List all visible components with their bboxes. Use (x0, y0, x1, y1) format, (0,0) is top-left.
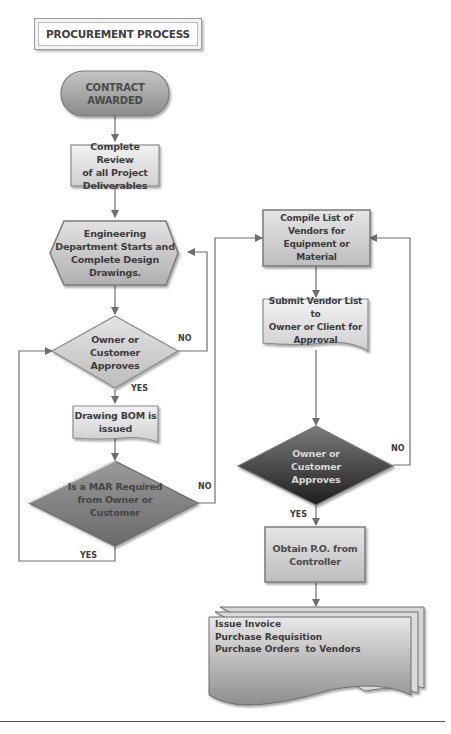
label-line: CONTRACT (85, 81, 144, 94)
label-line: Obtain P.O. from (273, 542, 358, 555)
label-line: Complete Design (55, 253, 174, 266)
label-line: from Owner or (68, 493, 163, 506)
label-line: Is a MAR Required (68, 480, 163, 493)
label-line: Compile List of (263, 212, 370, 225)
label-line: Owner or Client for (263, 321, 368, 334)
complete-review-label: Complete Review of all Project Deliverab… (71, 145, 159, 186)
label-line: AWARDED (85, 94, 144, 107)
edge-label-owner2-no: NO (391, 444, 405, 453)
output-item: Issue Invoice (215, 618, 361, 631)
owner-approves-1-label: Owner or Customer Approves (75, 328, 155, 376)
footer-divider (0, 721, 445, 722)
label-line: Drawing BOM is (74, 409, 156, 422)
label-line: Owner or (90, 333, 140, 346)
outputs-label: Issue Invoice Purchase Requisition Purch… (215, 618, 361, 656)
owner-approves-2-label: Owner or Customer Approves (276, 442, 356, 490)
edge-label-owner1-no: NO (178, 334, 192, 343)
output-item: Purchase Orders to Vendors (215, 643, 361, 656)
output-item: Purchase Requisition (215, 631, 361, 644)
edge-label-owner2-yes: YES (290, 510, 307, 519)
label-line: Engineering (55, 227, 174, 240)
label-line: Customer (291, 460, 341, 473)
label-line: Vendors for (263, 225, 370, 238)
page-title: PROCUREMENT PROCESS (38, 22, 198, 46)
drawing-bom-label: Drawing BOM is issued (73, 406, 158, 438)
label-line: Controller (273, 555, 358, 568)
label-line: Deliverables (71, 179, 159, 192)
compile-list-label: Compile List of Vendors for Equipment or… (263, 210, 370, 266)
label-line: Customer (68, 506, 163, 519)
title-banner: PROCUREMENT PROCESS (34, 18, 202, 50)
label-line: Equipment or Material (263, 238, 370, 264)
edge-label-mar-no: NO (198, 482, 212, 491)
submit-vendor-label: Submit Vendor List to Owner or Client fo… (263, 299, 368, 342)
edge-label-owner1-yes: YES (131, 384, 148, 393)
label-line: issued (74, 422, 156, 435)
engineering-label: Engineering Department Starts and Comple… (54, 221, 176, 285)
label-line: Drawings. (55, 266, 174, 279)
label-line: Complete Review (71, 140, 159, 166)
edge-label-mar-yes: YES (80, 551, 97, 560)
mar-required-label: Is a MAR Required from Owner or Customer (62, 478, 168, 520)
label-line: of all Project (71, 166, 159, 179)
label-line: Approval (263, 334, 368, 347)
label-line: Department Starts and (55, 240, 174, 253)
label-line: Submit Vendor List to (263, 295, 368, 321)
contract-awarded-label: CONTRACT AWARDED (61, 71, 169, 116)
label-line: Approves (90, 359, 140, 372)
label-line: Approves (291, 473, 341, 486)
obtain-po-label: Obtain P.O. from Controller (265, 527, 365, 582)
label-line: Owner or (291, 447, 341, 460)
label-line: Customer (90, 346, 140, 359)
